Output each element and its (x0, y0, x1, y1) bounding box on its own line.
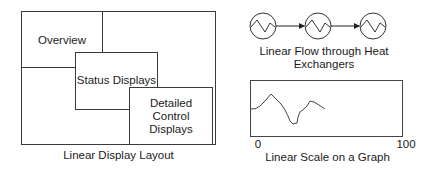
graph-frame (251, 81, 403, 137)
heat-exchanger-icon (305, 13, 331, 39)
flow-caption-line-2: Exchangers (240, 58, 408, 71)
heat-exchanger-icon (360, 13, 386, 39)
flow-caption: Linear Flow through Heat Exchangers (240, 45, 408, 71)
heat-exchanger-icon (250, 13, 276, 39)
graph-x-min-label: 0 (252, 138, 264, 151)
graph-x-max-label: 100 (393, 138, 419, 151)
graph-trend-line (251, 94, 325, 124)
flow-caption-line-1: Linear Flow through Heat (240, 45, 408, 58)
graph-caption: Linear Scale on a Graph (250, 151, 405, 164)
